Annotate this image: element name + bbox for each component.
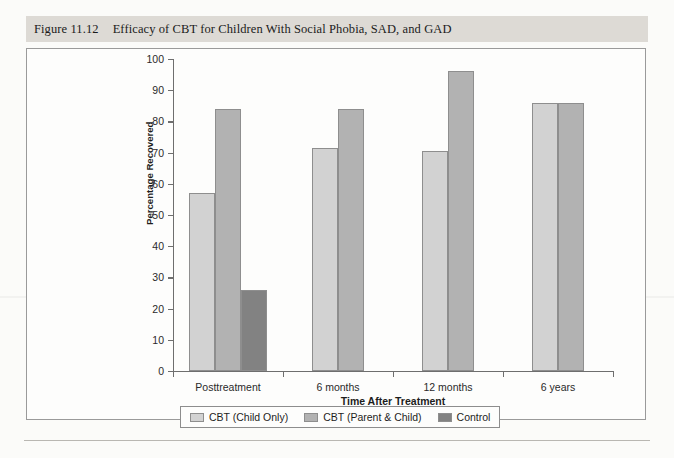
figure-title: Efficacy of CBT for Children With Social… xyxy=(113,22,452,37)
legend-item: Control xyxy=(438,411,491,423)
y-axis-tick xyxy=(168,90,173,91)
y-axis-tick-label: 40 xyxy=(152,241,164,252)
y-axis-tick-label: 30 xyxy=(152,272,164,283)
legend-label: Control xyxy=(457,411,491,423)
bar xyxy=(532,103,558,371)
y-axis-tick-label: 50 xyxy=(152,210,164,221)
bar xyxy=(312,148,338,371)
y-axis-tick xyxy=(168,184,173,185)
y-axis-tick xyxy=(168,340,173,341)
x-axis-category-label: Posttreatment xyxy=(195,381,260,393)
legend-swatch xyxy=(190,413,204,422)
y-axis-tick-label: 100 xyxy=(146,54,164,65)
x-axis-tick xyxy=(173,371,174,377)
figure-caption: Figure 11.12 Efficacy of CBT for Childre… xyxy=(34,18,644,40)
y-axis-tick-label: 60 xyxy=(152,179,164,190)
x-axis-tick xyxy=(503,371,504,377)
x-axis-category-label: 6 years xyxy=(541,381,575,393)
y-axis-tick xyxy=(168,153,173,154)
legend-swatch xyxy=(438,413,452,422)
chart-legend: CBT (Child Only)CBT (Parent & Child)Cont… xyxy=(180,406,500,428)
legend-label: CBT (Child Only) xyxy=(209,411,288,423)
figure-page: Figure 11.12 Efficacy of CBT for Childre… xyxy=(0,0,674,458)
y-axis-tick-label: 90 xyxy=(152,85,164,96)
bar xyxy=(558,103,584,371)
x-axis-category-label: 6 months xyxy=(316,381,359,393)
bar xyxy=(338,109,364,371)
y-axis-tick xyxy=(168,215,173,216)
y-axis-tick xyxy=(168,309,173,310)
bar xyxy=(422,151,448,371)
y-axis-tick xyxy=(168,246,173,247)
bar xyxy=(448,71,474,371)
y-axis-tick-label: 20 xyxy=(152,303,164,314)
legend-swatch xyxy=(304,413,318,422)
y-axis-tick xyxy=(168,59,173,60)
page-divider xyxy=(24,440,650,441)
x-axis-tick xyxy=(393,371,394,377)
bar xyxy=(189,193,215,371)
legend-item: CBT (Parent & Child) xyxy=(304,411,421,423)
legend-label: CBT (Parent & Child) xyxy=(323,411,421,423)
bar xyxy=(215,109,241,371)
y-axis-line xyxy=(173,59,174,371)
y-axis-tick-label: 10 xyxy=(152,335,164,346)
y-axis-tick-label: 0 xyxy=(158,366,164,377)
y-axis-tick xyxy=(168,121,173,122)
chart-frame: Percentage Recovered 0102030405060708090… xyxy=(26,48,646,420)
figure-number: Figure 11.12 xyxy=(34,22,99,37)
y-axis-tick-label: 70 xyxy=(152,147,164,158)
bar xyxy=(241,290,267,371)
x-axis-tick xyxy=(283,371,284,377)
y-axis-tick-label: 80 xyxy=(152,116,164,127)
legend-item: CBT (Child Only) xyxy=(190,411,288,423)
plot-area: 0102030405060708090100Posttreatment6 mon… xyxy=(173,59,613,371)
y-axis-tick xyxy=(168,277,173,278)
x-axis-tick xyxy=(613,371,614,377)
x-axis-category-label: 12 months xyxy=(423,381,472,393)
